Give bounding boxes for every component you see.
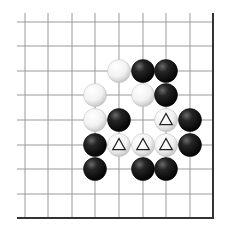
black-stone <box>84 158 107 181</box>
black-stone <box>155 60 178 83</box>
black-stone <box>108 109 131 132</box>
black-stone <box>155 84 178 107</box>
white-stone-marked <box>155 134 178 157</box>
black-stone <box>155 158 178 181</box>
white-stone <box>84 84 107 107</box>
black-stone <box>84 134 107 157</box>
black-stone <box>132 158 155 181</box>
white-stone <box>84 109 107 132</box>
white-stone <box>132 84 155 107</box>
white-stone-marked <box>155 109 178 132</box>
black-stone <box>179 134 202 157</box>
white-stone-marked <box>108 134 131 157</box>
black-stone <box>132 60 155 83</box>
go-board-diagram <box>0 0 227 234</box>
white-stone-marked <box>132 134 155 157</box>
black-stone <box>179 109 202 132</box>
white-stone <box>108 60 131 83</box>
